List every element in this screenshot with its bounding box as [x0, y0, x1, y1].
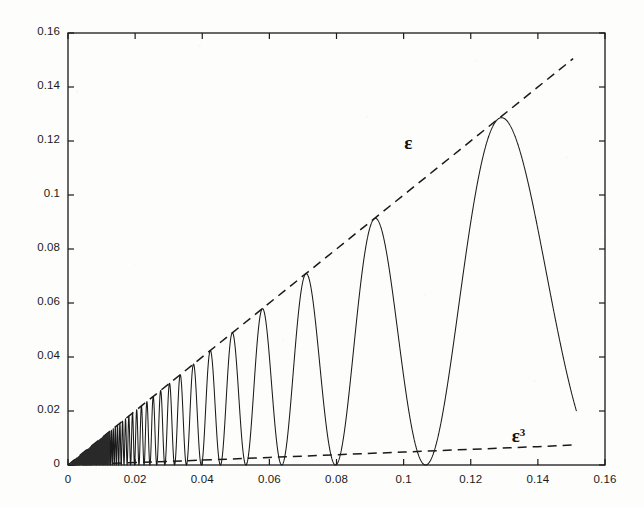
y-tick-label: 0.16 — [16, 25, 60, 37]
x-tick-label: 0.1 — [379, 473, 429, 485]
x-tick-label: 0.12 — [446, 473, 496, 485]
plot-svg — [0, 0, 644, 508]
epsilon-label-glyph: ε — [404, 132, 412, 153]
y-tick-label: 0.12 — [16, 133, 60, 145]
figure-canvas: 00.020.040.060.080.10.120.140.16 00.020.… — [0, 0, 644, 508]
x-tick-label: 0.02 — [110, 473, 160, 485]
oscillation-curve — [72, 118, 576, 465]
x-tick-label: 0 — [43, 473, 93, 485]
x-tick-label: 0.08 — [312, 473, 362, 485]
y-tick-label: 0.14 — [16, 79, 60, 91]
data-series-layer — [68, 59, 576, 465]
origin-dense-oscillation-region — [68, 431, 110, 465]
x-tick-label: 0.16 — [580, 473, 630, 485]
x-tick-label: 0.04 — [177, 473, 227, 485]
y-tick-label: 0.02 — [16, 403, 60, 415]
x-tick-label: 0.14 — [513, 473, 563, 485]
epsilon-cubed-label-glyph: ε — [512, 425, 520, 446]
y-tick-label: 0.04 — [16, 349, 60, 361]
epsilon-label: ε — [404, 132, 412, 154]
y-tick-label: 0.08 — [16, 241, 60, 253]
y-tick-label: 0 — [16, 457, 60, 469]
x-tick-label: 0.06 — [244, 473, 294, 485]
epsilon-cubed-label: ε3 — [512, 425, 526, 447]
y-tick-label: 0.1 — [16, 187, 60, 199]
epsilon-cubed-label-exponent: 3 — [520, 426, 526, 438]
y-tick-label: 0.06 — [16, 295, 60, 307]
